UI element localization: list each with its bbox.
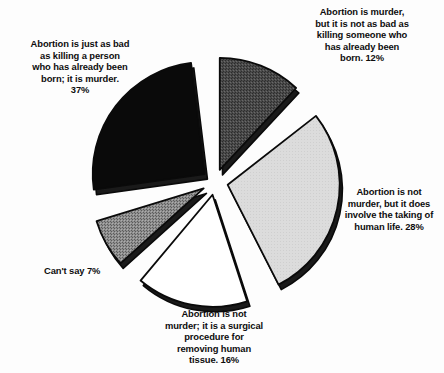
- slice-label-not-murder-surgical: Abortion is not murder; it is a surgical…: [146, 308, 282, 366]
- slice-label-cant-say: Can't say 7%: [44, 265, 146, 277]
- slice-label-not-murder-taking-life: Abortion is not murder, but it does invo…: [336, 186, 442, 232]
- pie-chart: Abortion is murder, but it is not as bad…: [0, 0, 444, 373]
- slice-label-murder-not-as-bad: Abortion is murder, but it is not as bad…: [288, 6, 436, 64]
- slice-label-just-as-bad-murder: Abortion is just as bad as killing a per…: [6, 38, 154, 96]
